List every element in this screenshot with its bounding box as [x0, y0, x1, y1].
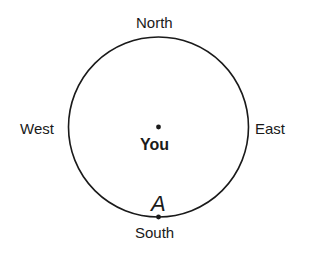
east-label: East	[255, 121, 285, 136]
north-label: North	[136, 15, 173, 30]
center-dot	[156, 125, 161, 130]
point-a-label: A	[151, 193, 166, 215]
west-label: West	[20, 121, 54, 136]
south-label: South	[135, 225, 174, 240]
you-label: You	[140, 137, 169, 153]
